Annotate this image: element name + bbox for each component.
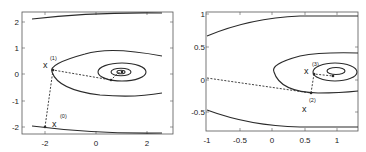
right-x-tick-label: 0.5 (299, 136, 311, 145)
right-y-tick-label: 0 (201, 76, 206, 85)
right-y-tick-label: 1 (201, 10, 206, 19)
label-x1: x (43, 60, 48, 70)
label-x3-sup: (3) (312, 61, 319, 67)
left-y-tick-label: -1 (12, 97, 20, 106)
right-x-tick-label: -0.5 (233, 136, 247, 145)
right-x-ticks (240, 12, 337, 131)
label-x0: x (52, 119, 57, 129)
right-y-tick-label: -0.5 (191, 108, 205, 117)
label-x1-sup: (1) (50, 55, 57, 61)
label-x2: x (302, 104, 307, 114)
figure: -2 0 2 2 1 0 -1 -2 x (1) x (0) (0, 0, 366, 152)
right-iterate-path (207, 74, 333, 93)
left-y-tick-label: 1 (15, 44, 20, 53)
left-x-tick-label: 2 (145, 139, 150, 148)
right-x-tick-label: 1 (335, 136, 340, 145)
contour-top (32, 13, 162, 19)
left-y-tick-label: 0 (15, 70, 20, 79)
left-plot: -2 0 2 2 1 0 -1 -2 x (1) x (0) (12, 12, 173, 148)
contour-bottom (207, 110, 358, 127)
left-iterate-path (45, 70, 122, 127)
left-contours (32, 13, 162, 133)
right-plot-frame (206, 12, 358, 131)
contour-top (207, 16, 358, 36)
left-x-tick-label: -2 (41, 139, 49, 148)
label-x2-sup: (2) (309, 97, 316, 103)
left-y-tick-label: 2 (15, 18, 20, 27)
right-contours (207, 16, 358, 127)
right-plot: -1 -0.5 0 0.5 1 1 0.5 0 -0.5 x (3) x (2) (191, 10, 358, 145)
left-y-ticks (22, 22, 173, 127)
label-x0-sup: (0) (60, 113, 67, 119)
right-y-tick-label: 0.5 (194, 43, 206, 52)
left-x-tick-label: 0 (94, 139, 99, 148)
left-y-tick-label: -2 (12, 123, 20, 132)
right-x-tick-label: -1 (203, 136, 211, 145)
contour-inner (327, 68, 345, 75)
label-x3: x (304, 66, 309, 76)
left-plot-frame (22, 12, 173, 134)
right-x-tick-label: 0 (270, 136, 275, 145)
contour-outer (274, 53, 358, 93)
contour-mid (313, 63, 357, 81)
